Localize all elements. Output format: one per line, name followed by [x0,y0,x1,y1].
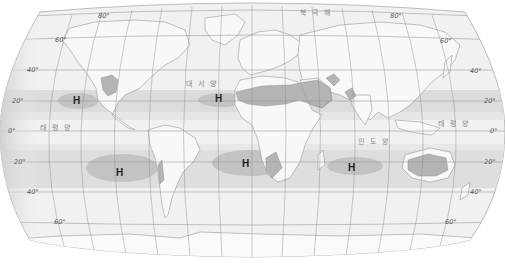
high-pressure-marker: H [73,95,80,106]
lat-label: 40° [27,66,39,74]
ocean-label-pacific-east: 태 평 양 [438,119,470,128]
lat-label: 20° [484,158,496,166]
ocean-label-atlantic: 대 서 양 [186,79,218,88]
world-map: 80° 60° 40° 20° 0° 20° 40° 60° 80° 60° 4… [0,0,505,265]
lat-label: 60° [440,37,452,45]
lat-label: 20° [484,97,496,105]
high-pressure-marker: H [348,162,355,173]
high-pressure-marker: H [116,167,123,178]
lat-label: 0° [8,127,15,135]
lat-label: 80° [390,12,402,20]
lat-label: 40° [470,188,482,196]
lat-label: 20° [12,97,24,105]
lat-label: 40° [470,67,482,75]
lat-label: 60° [445,218,457,226]
lat-label: 20° [14,158,26,166]
ocean-label-indian: 인 도 양 [358,137,390,146]
ocean-label-arctic: 북 극 해 [300,8,332,17]
lat-label: 40° [27,188,39,196]
high-pressure-marker: H [215,93,222,104]
lat-label: 60° [54,218,66,226]
ocean-label-pacific-west: 태 평 양 [40,123,72,132]
lat-label: 60° [55,36,67,44]
lat-label: 0° [490,127,497,135]
high-pressure-marker: H [242,158,249,169]
lat-label: 80° [98,12,110,20]
